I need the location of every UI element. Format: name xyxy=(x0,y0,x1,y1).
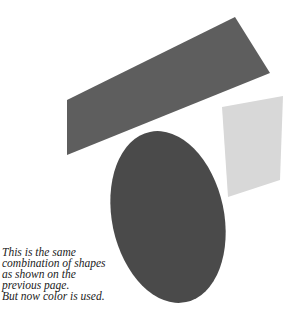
light-quad-shape xyxy=(222,96,283,197)
caption: This is the same combination of shapes a… xyxy=(2,247,142,302)
caption-line: But now color is used. xyxy=(2,291,142,302)
